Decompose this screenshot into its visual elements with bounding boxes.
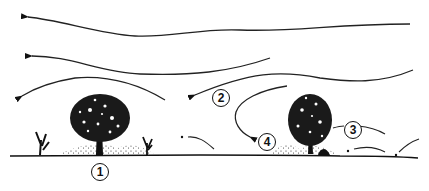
label-1-text: 1 [97,166,104,178]
sand-mound-left [58,144,155,155]
diagram-canvas: 1 2 3 4 [0,0,429,191]
label-2: 2 [212,89,230,107]
label-4-text: 4 [264,136,271,148]
label-4: 4 [258,133,276,151]
shrub-right [288,94,332,155]
wind-arrow-top [28,17,410,36]
shrub-left [70,94,130,154]
wind-arrow-deflect [235,86,287,137]
grass-tuft-left [36,132,49,155]
label-3-text: 3 [350,124,357,136]
label-2-text: 2 [218,92,225,104]
label-3: 3 [344,121,362,139]
label-1: 1 [91,163,109,181]
wind-arrow-middle-short [32,56,270,74]
ground-line [10,155,418,158]
